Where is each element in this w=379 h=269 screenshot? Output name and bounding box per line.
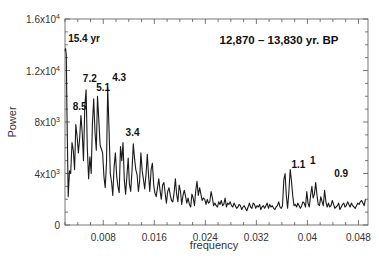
peak-label: 5.1 [96,82,110,93]
peak-label: 1.1 [291,159,305,170]
peak-label: 3.4 [126,127,140,138]
peak-label: 0.9 [334,168,348,179]
y-tick-label: 0 [54,220,60,231]
peak-label: 4.3 [112,72,126,83]
peak-label: 8.5 [73,101,87,112]
x-tick-label: 0.008 [91,232,116,243]
chart-title: 12,870 – 13,830 yr. BP [220,34,339,46]
y-tick-label: 1.6x104 [26,13,60,25]
y-axis-title: Power [6,106,18,138]
peak-label: 7.2 [83,73,97,84]
x-tick-label: 0.032 [244,232,269,243]
y-tick-label: 1.2x104 [26,65,60,77]
power-spectrum-chart: 0.0080.0160.0240.0320.040.048 04x1038x10… [0,0,379,269]
x-tick-label: 0.016 [142,232,167,243]
x-tick-label: 0.04 [298,232,318,243]
x-axis-title: frequency [190,239,239,251]
peak-label: 1 [310,155,316,166]
peak-label: 15.4 yr [68,33,100,44]
x-tick-label: 0.048 [346,232,371,243]
